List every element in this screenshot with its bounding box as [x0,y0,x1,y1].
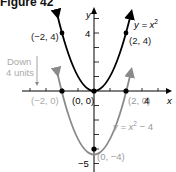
point-0-m4 [91,146,96,151]
point-0-0 [91,88,96,93]
tick-label-y4: 4 [85,28,90,39]
axis-label-y: y [85,9,92,20]
equation-shifted: y = x2 − 4 [112,120,153,132]
point-2-4 [124,31,129,36]
label-point-0-m4: (0, −4) [97,151,125,162]
parabola-graph: (−2, 4) (2, 4) (0, 0) (−2, 0) (2, 0) (0,… [0,0,176,172]
annotation-units: 4 units [6,67,34,78]
label-point-m2-0: (−2, 0) [31,95,59,106]
label-point-0-0: (0, 0) [72,95,94,106]
tick-label-x4: 4 [144,95,149,106]
point-m2-0 [59,88,64,93]
axis-label-x: x [166,95,173,106]
point-2-0 [123,88,128,93]
label-point-m2-4: (−2, 4) [31,31,59,42]
point-m2-4 [60,31,65,36]
annotation-down: Down [7,56,31,67]
tick-label-ym5: −5 [78,158,89,169]
equation-base: y = x2 [133,18,158,30]
label-point-2-4: (2, 4) [129,35,151,46]
